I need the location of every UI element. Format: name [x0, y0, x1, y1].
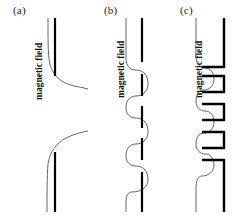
panel-b-plot	[88, 0, 170, 220]
panel-c-bracket-4	[202, 132, 224, 148]
panel-b: (b) magnetic field	[88, 0, 170, 220]
panel-c: (c) magnetic field	[170, 0, 252, 220]
panel-c-curve	[196, 18, 214, 212]
panel-c-plot	[170, 0, 252, 220]
panel-c-bracket-5	[202, 160, 224, 212]
panel-a-plot	[0, 0, 88, 220]
panel-a: (a) magnetic field	[0, 0, 88, 220]
magnetic-field-figure: (a) magnetic field (b) magnetic field (c…	[0, 0, 252, 220]
panel-c-bracket-1	[202, 18, 224, 67]
panel-a-curve-lower	[47, 131, 88, 212]
panel-b-curve	[126, 18, 148, 212]
